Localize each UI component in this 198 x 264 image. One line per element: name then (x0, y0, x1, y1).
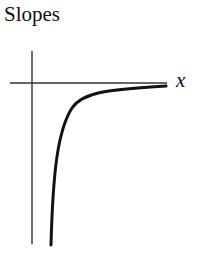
slope-graph (0, 0, 198, 264)
x-axis-label: x (176, 70, 185, 91)
curve (51, 86, 166, 245)
